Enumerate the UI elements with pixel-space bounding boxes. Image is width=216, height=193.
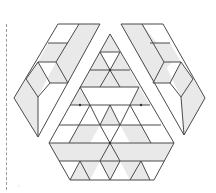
vertex-dot bbox=[140, 104, 142, 106]
hexagon-dissection bbox=[0, 0, 216, 193]
vertex-dot bbox=[109, 69, 111, 71]
diagram-canvas: · bbox=[0, 0, 216, 193]
vertex-dot bbox=[79, 104, 81, 106]
vertex-dot bbox=[109, 142, 111, 144]
